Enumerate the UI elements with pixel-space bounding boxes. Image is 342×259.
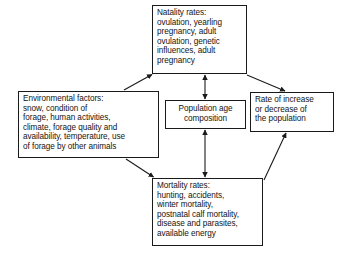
edge-environmental-to-natality: [124, 75, 152, 91]
edge-mortality-to-rate: [264, 133, 286, 180]
edge-environmental-to-mortality: [126, 159, 154, 177]
diagram-canvas: Natality rates: ovulation, yearling preg…: [0, 0, 342, 259]
natality-rates-box: Natality rates: ovulation, yearling preg…: [152, 5, 247, 74]
environmental-factors-box: Environmental factors: snow, condition o…: [18, 91, 159, 158]
edge-natality-to-rate: [247, 75, 285, 91]
mortality-rates-box: Mortality rates: hunting, accidents, win…: [152, 178, 263, 246]
rate-of-increase-or-decrease-box: Rate of increase or decrease of the popu…: [250, 92, 334, 132]
population-age-composition-box: Population age composition: [165, 100, 246, 129]
